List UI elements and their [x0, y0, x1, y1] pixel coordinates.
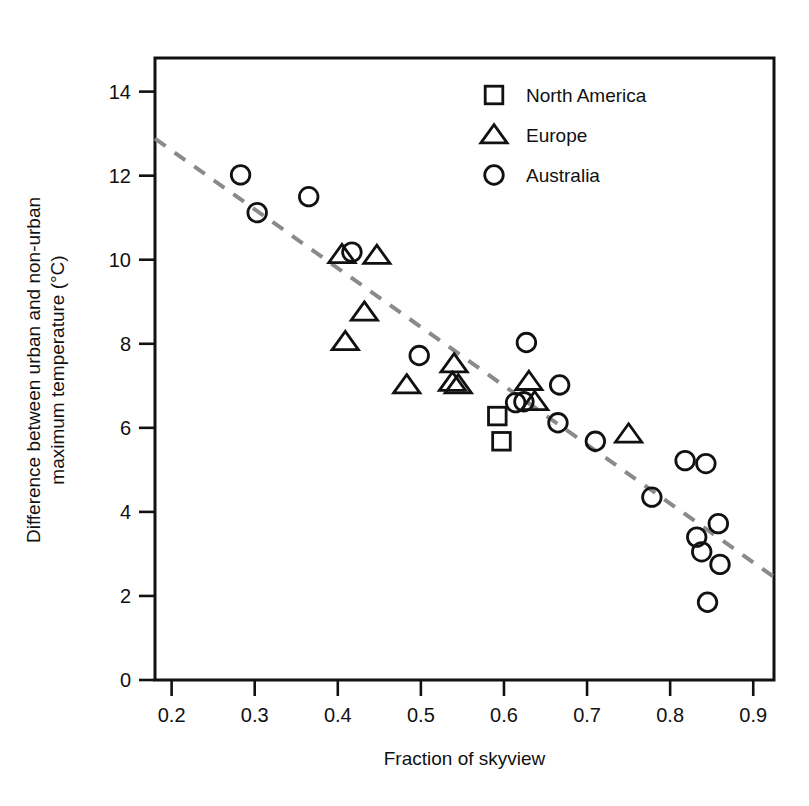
data-point — [549, 414, 568, 433]
y-axis-title-line1: Difference between urban and non-urban — [23, 197, 44, 543]
data-point — [516, 371, 542, 389]
data-point — [410, 346, 429, 365]
legend-label: Australia — [526, 165, 600, 186]
data-point — [550, 376, 569, 395]
x-tick-label: 0.4 — [324, 704, 352, 726]
x-tick-label: 0.7 — [573, 704, 601, 726]
legend: North AmericaEuropeAustralia — [481, 85, 647, 186]
y-tick-label: 10 — [109, 249, 131, 271]
x-axis: 0.20.30.40.50.60.70.80.9 — [158, 680, 767, 726]
x-tick-label: 0.9 — [739, 704, 767, 726]
series-europe — [329, 244, 642, 442]
y-tick-label: 2 — [120, 585, 131, 607]
legend-marker-square — [485, 86, 503, 104]
x-tick-label: 0.6 — [490, 704, 518, 726]
chart-figure: 0.20.30.40.50.60.70.80.902468101214North… — [0, 0, 809, 806]
series-north-america — [489, 407, 511, 450]
y-tick-label: 0 — [120, 669, 131, 691]
series-australia — [231, 166, 729, 612]
data-point — [517, 333, 536, 352]
data-point — [709, 514, 728, 533]
scatter-plot: 0.20.30.40.50.60.70.80.902468101214North… — [0, 0, 809, 806]
x-axis-title: Fraction of skyview — [384, 748, 546, 769]
y-axis: 02468101214 — [109, 81, 155, 691]
y-tick-label: 12 — [109, 165, 131, 187]
data-point — [698, 593, 717, 612]
x-tick-label: 0.3 — [241, 704, 269, 726]
data-point — [676, 451, 695, 470]
data-point — [332, 331, 358, 349]
y-tick-label: 4 — [120, 501, 131, 523]
data-point — [351, 302, 377, 320]
x-tick-label: 0.5 — [407, 704, 435, 726]
legend-marker-triangle — [481, 125, 507, 143]
trend-line — [155, 139, 774, 577]
data-point — [364, 245, 390, 263]
data-point — [493, 432, 511, 450]
legend-label: Europe — [526, 125, 587, 146]
legend-marker-circle — [485, 166, 504, 185]
data-point — [394, 375, 420, 393]
data-point — [697, 454, 716, 473]
data-point — [299, 187, 318, 206]
data-point — [586, 432, 605, 451]
data-point — [441, 354, 467, 372]
x-tick-label: 0.2 — [158, 704, 186, 726]
data-point — [615, 424, 641, 442]
data-point — [489, 407, 507, 425]
data-point — [231, 166, 250, 185]
legend-label: North America — [526, 85, 647, 106]
y-tick-label: 14 — [109, 81, 131, 103]
y-axis-title-line2: maximum temperature (°C) — [47, 255, 68, 484]
x-tick-label: 0.8 — [656, 704, 684, 726]
y-tick-label: 8 — [120, 333, 131, 355]
y-tick-label: 6 — [120, 417, 131, 439]
data-point — [711, 555, 730, 574]
